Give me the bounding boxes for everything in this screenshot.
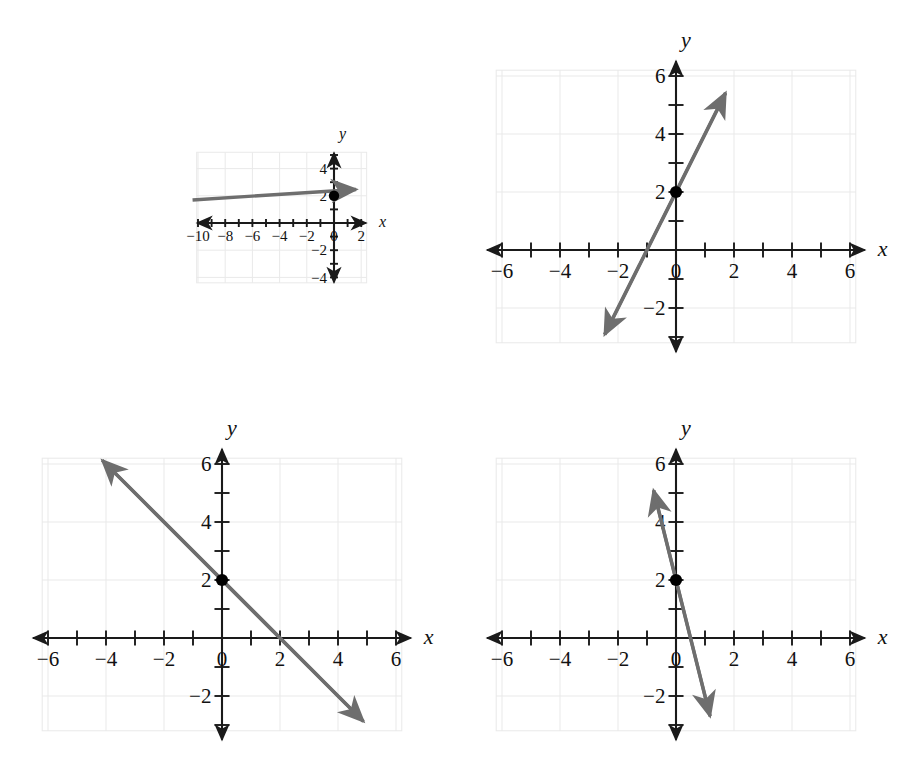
x-tick-label: −4	[95, 647, 118, 671]
y-tick-label: 2	[201, 568, 212, 592]
coordinate-plane-plot-3: −6−4−20246−2246xy	[0, 400, 460, 770]
x-tick-label: −6	[37, 647, 59, 671]
x-tick-label: −6	[491, 647, 513, 671]
y-tick-label: 2	[655, 180, 666, 204]
axes	[197, 153, 366, 282]
coordinate-plane-plot-2: −6−4−20246−2246xy	[460, 18, 922, 390]
x-tick-label: 0	[671, 259, 682, 283]
x-tick-label: 4	[787, 647, 798, 671]
y-tick-label: 6	[655, 64, 666, 88]
x-tick-label: −2	[153, 647, 175, 671]
x-tick-label: 0	[671, 647, 682, 671]
y-tick-label: −4	[311, 270, 327, 286]
y-tick-label: −2	[643, 684, 665, 708]
x-axis-label: x	[877, 236, 888, 261]
y-tick-label: −2	[311, 242, 327, 258]
y-intercept-point	[216, 574, 228, 586]
y-tick-label: 6	[201, 452, 212, 476]
coordinate-plane-plot-4: −6−4−20246−2246xy	[460, 400, 922, 770]
y-axis-label: y	[337, 125, 347, 143]
x-tick-label: −2	[607, 259, 629, 283]
plotted-points	[329, 191, 339, 201]
data-lines	[654, 490, 710, 716]
plotted-points	[670, 574, 682, 586]
x-tick-label: −8	[217, 228, 233, 244]
data-lines	[102, 460, 363, 721]
x-axis-label: x	[423, 624, 434, 649]
x-tick-label: −6	[491, 259, 513, 283]
y-tick-label: −2	[643, 296, 665, 320]
coordinate-plane-plot-1: −10−8−6−4−202−4−224xy	[0, 18, 460, 390]
y-axis-label: y	[679, 415, 691, 440]
grid-lines	[197, 152, 367, 283]
x-tick-label: 2	[729, 259, 740, 283]
y-axis-label: y	[225, 415, 237, 440]
x-tick-label: −6	[244, 228, 260, 244]
x-tick-label: −4	[549, 259, 572, 283]
y-tick-label: −2	[189, 684, 211, 708]
x-tick-label: −2	[607, 647, 629, 671]
y-tick-label: 4	[655, 122, 666, 146]
x-axis-label: x	[378, 213, 386, 230]
x-tick-label: 0	[217, 647, 228, 671]
y-tick-label: 2	[655, 568, 666, 592]
x-tick-label: 2	[275, 647, 286, 671]
x-tick-label: 0	[330, 228, 338, 244]
graphed-line	[654, 490, 710, 716]
x-tick-label: 4	[333, 647, 344, 671]
x-axis-label: x	[877, 624, 888, 649]
y-tick-label: 6	[655, 452, 666, 476]
x-tick-label: −4	[272, 228, 288, 244]
x-tick-label: −4	[549, 647, 572, 671]
x-tick-label: 6	[391, 647, 402, 671]
y-tick-label: 4	[320, 161, 328, 177]
y-intercept-point	[670, 186, 682, 198]
plotted-points	[216, 574, 228, 586]
x-tick-label: 6	[845, 647, 856, 671]
x-tick-label: 4	[787, 259, 798, 283]
plotted-points	[670, 186, 682, 198]
x-tick-label: 2	[357, 228, 365, 244]
y-intercept-point	[329, 191, 339, 201]
y-axis-label: y	[679, 27, 691, 52]
worksheet-page: −10−8−6−4−202−4−224xy−6−4−20246−2246xy−6…	[0, 0, 922, 770]
x-tick-label: 2	[729, 647, 740, 671]
x-tick-label: −10	[186, 228, 209, 244]
graphed-line	[102, 460, 363, 721]
y-tick-label: 4	[201, 510, 212, 534]
y-intercept-point	[670, 574, 682, 586]
x-tick-label: 6	[845, 259, 856, 283]
